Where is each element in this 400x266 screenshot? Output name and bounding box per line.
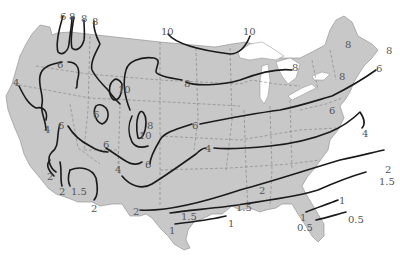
isoline-label: 10 [161,27,174,37]
isoline-label: 2 [385,165,391,175]
isoline-label: 1.5 [71,187,87,197]
isoline-label: 6 [58,121,64,131]
isoline-label: 2 [133,207,139,217]
isoline-label: 10 [118,85,131,95]
isoline-label: 4 [115,165,121,175]
isoline-label: 1 [228,219,234,229]
isoline-label: 6 [93,110,99,120]
isoline-label: 8 [386,46,392,56]
isoline-label: 0.5 [297,223,313,233]
isoline-label: 8 [81,14,87,24]
isoline-label: 4 [362,129,368,139]
isoline-label: 4 [44,125,50,135]
isoline-label: 2 [47,172,53,182]
isoline-label: 8 [345,40,351,50]
isoline-label: 8 [184,79,190,89]
isoline-label: 10 [243,27,256,37]
isoline-label: 2 [259,186,265,196]
isoline-label: 6 [103,140,109,150]
isoline-label: 2 [91,204,97,214]
isoline-label: 8 [339,72,345,82]
us-isoline-map [0,0,400,266]
isoline-label: 2 [59,187,65,197]
isoline-label: 8 [69,12,75,22]
isoline-label: 0.5 [348,215,364,225]
isoline-label: 1 [339,196,345,206]
isoline-label: 6 [376,64,382,74]
isoline-label: 8 [92,17,98,27]
isoline-label: 4 [13,78,19,88]
isoline-label: 6 [192,121,198,131]
isoline-label: 1.5 [181,212,197,222]
isoline-label: 1.5 [379,177,395,187]
isoline-label: 4 [205,144,211,154]
isoline-label: 8 [292,63,298,73]
isoline-label: 10 [139,131,152,141]
isoline-label: 1 [169,226,175,236]
isoline-label: 6 [57,60,63,70]
isoline-label: 1.5 [236,203,252,213]
isoline-label: 6 [329,106,335,116]
isoline-label: 6 [145,160,151,170]
isoline-label: 6 [60,12,66,22]
